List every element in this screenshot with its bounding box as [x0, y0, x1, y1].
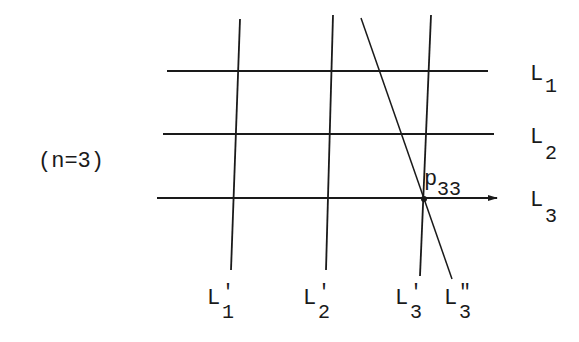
label-L1: L 1	[530, 62, 557, 98]
label-L3-double-prime-sub: 3	[459, 301, 471, 324]
condition-label: (n=3)	[38, 149, 104, 174]
label-L3-prime: L ' 3	[395, 281, 422, 324]
label-L1-sub: 1	[545, 75, 557, 98]
label-L3-prime-base: L	[395, 286, 408, 311]
label-L1-prime: L ' 1	[207, 281, 234, 324]
label-L3-double-prime: L " 3	[444, 281, 471, 324]
label-L1-base: L	[530, 62, 543, 87]
label-L3-base: L	[530, 188, 543, 213]
label-p33: p 33	[424, 167, 461, 201]
line-L3-double-prime	[361, 18, 452, 279]
point-p33-marker	[421, 196, 427, 202]
label-L2: L 2	[530, 125, 557, 165]
line-arrangement-diagram: (n=3) L 1 L 2 L 3 p 33 L ' 1 L ' 2 L ' 3…	[0, 0, 579, 342]
label-p33-sub: 33	[437, 178, 461, 201]
line-L2-prime	[326, 15, 333, 270]
label-L2-prime: L ' 2	[303, 281, 330, 324]
label-L2-base: L	[530, 125, 543, 150]
label-p33-base: p	[424, 167, 437, 192]
label-L3-prime-sub: 3	[410, 301, 422, 324]
label-L2-sub: 2	[545, 142, 557, 165]
line-L3-prime	[420, 15, 431, 276]
label-L3-double-prime-base: L	[444, 286, 457, 311]
label-L1-prime-sub: 1	[222, 301, 234, 324]
line-L1-prime	[231, 19, 240, 270]
label-L3-sub: 3	[545, 205, 557, 228]
label-L2-prime-base: L	[303, 286, 316, 311]
label-L1-prime-base: L	[207, 286, 220, 311]
label-L3: L 3	[530, 188, 557, 228]
label-L2-prime-sub: 2	[318, 301, 330, 324]
